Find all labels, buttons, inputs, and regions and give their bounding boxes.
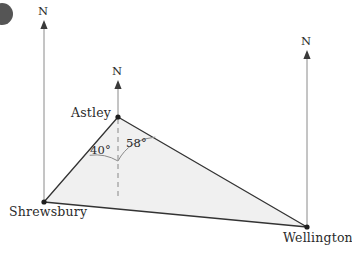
angle-label-40: 40° (90, 145, 111, 157)
north-arrow-shrewsbury (40, 20, 47, 202)
north-arrowhead-astley (114, 80, 121, 89)
place-label-shrewsbury: Shrewsbury (9, 206, 87, 219)
north-label-astley: N (112, 66, 122, 78)
place-label-wellington: Wellington (283, 232, 352, 245)
angle-label-58: 58° (126, 138, 147, 150)
bearings-diagram: Astley Shrewsbury Wellington N N N 40° 5… (0, 0, 352, 253)
place-label-astley: Astley (71, 107, 111, 120)
north-arrowhead-wellington (303, 50, 310, 59)
north-label-shrewsbury: N (38, 6, 48, 18)
north-label-wellington: N (301, 36, 311, 48)
north-arrowhead-shrewsbury (40, 20, 47, 29)
figure-bullet-icon (0, 3, 13, 25)
vertex-dot-wellington (304, 224, 309, 229)
north-arrow-wellington (303, 50, 310, 227)
north-arrow-astley (114, 80, 121, 117)
vertex-dot-astley (115, 114, 120, 119)
